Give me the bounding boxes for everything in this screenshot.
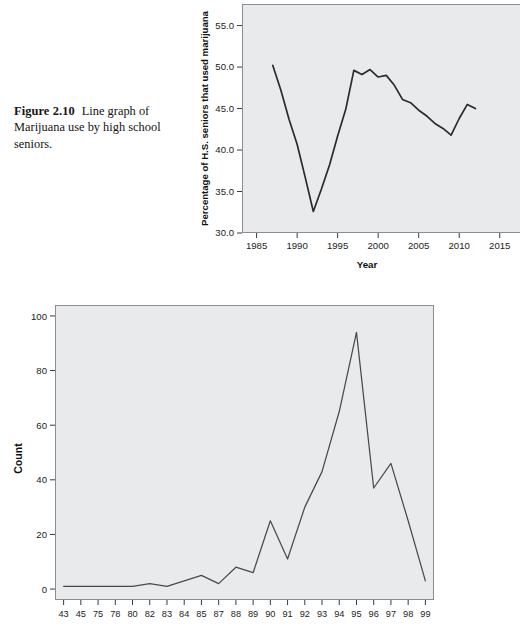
x-tick-label: 78 xyxy=(110,609,120,619)
x-tick-label: 91 xyxy=(282,609,292,619)
x-tick-label: 84 xyxy=(179,609,189,619)
y-tick-label: 20 xyxy=(36,529,47,540)
count-chart-svg: 020406080100 434575788082838485878889909… xyxy=(8,290,478,626)
y-tick-label: 55.0 xyxy=(215,20,234,31)
x-tick-label: 99 xyxy=(420,609,430,619)
x-tick-label: 95 xyxy=(351,609,361,619)
figure-caption-label: Figure 2.10 xyxy=(14,104,75,118)
x-tick-label: 82 xyxy=(145,609,155,619)
figure-caption: Figure 2.10Line graph of Marijuana use b… xyxy=(14,103,190,152)
x-axis-ticks: 4345757880828384858788899091929394959697… xyxy=(58,600,430,619)
x-tick-label: 90 xyxy=(265,609,275,619)
x-tick-label: 2005 xyxy=(408,240,429,251)
x-tick-label: 1995 xyxy=(327,240,348,251)
x-tick-label: 94 xyxy=(334,609,344,619)
x-tick-label: 2000 xyxy=(367,240,388,251)
x-tick-label: 2010 xyxy=(449,240,470,251)
x-tick-label: 96 xyxy=(369,609,379,619)
x-tick-label: 85 xyxy=(196,609,206,619)
plot-panel-background xyxy=(55,305,434,600)
x-tick-label: 2015 xyxy=(489,240,510,251)
x-tick-label: 98 xyxy=(403,609,413,619)
y-tick-label: 40 xyxy=(36,474,47,485)
x-tick-label: 1990 xyxy=(286,240,307,251)
y-tick-label: 35.0 xyxy=(215,186,234,197)
y-tick-label: 100 xyxy=(31,311,47,322)
y-tick-label: 40.0 xyxy=(215,144,234,155)
x-tick-label: 43 xyxy=(58,609,68,619)
x-axis-ticks: 1985199019952000200520102015 xyxy=(246,233,510,251)
x-tick-label: 45 xyxy=(76,609,86,619)
x-tick-label: 93 xyxy=(317,609,327,619)
x-tick-label: 83 xyxy=(162,609,172,619)
y-tick-label: 0 xyxy=(42,584,47,595)
y-tick-label: 80 xyxy=(36,365,47,376)
x-tick-label: 92 xyxy=(300,609,310,619)
y-axis-title: Count xyxy=(12,443,24,474)
x-tick-label: 1985 xyxy=(246,240,267,251)
y-tick-label: 30.0 xyxy=(215,227,234,238)
y-tick-label: 45.0 xyxy=(215,103,234,114)
x-tick-label: 97 xyxy=(386,609,396,619)
y-axis-ticks: 30.035.040.045.050.055.0 xyxy=(215,20,242,238)
plot-panel-background xyxy=(242,4,520,233)
x-tick-label: 75 xyxy=(93,609,103,619)
x-tick-label: 87 xyxy=(214,609,224,619)
y-tick-label: 60 xyxy=(36,420,47,431)
x-tick-label: 80 xyxy=(127,609,137,619)
x-tick-label: 89 xyxy=(248,609,258,619)
x-tick-label: 88 xyxy=(231,609,241,619)
y-axis-title: Percentage of H.S. seniors that used mar… xyxy=(199,10,210,226)
marijuana-line-chart: 30.035.040.045.050.055.0 198519901995200… xyxy=(196,0,520,280)
y-axis-ticks: 020406080100 xyxy=(31,311,55,595)
count-line-chart: 020406080100 434575788082838485878889909… xyxy=(8,290,478,626)
marijuana-chart-svg: 30.035.040.045.050.055.0 198519901995200… xyxy=(196,0,520,280)
x-axis-title: Year xyxy=(357,259,378,270)
y-tick-label: 50.0 xyxy=(215,61,234,72)
